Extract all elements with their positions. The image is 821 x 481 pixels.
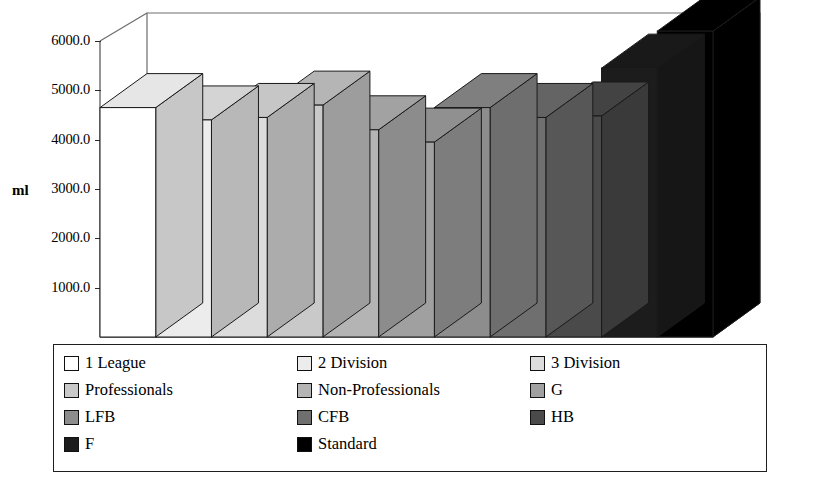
y-tick-mark — [95, 90, 101, 91]
legend-item-label: 1 League — [85, 355, 146, 372]
y-tick-label: 1000.0 — [18, 279, 90, 296]
legend-item-label: 2 Division — [318, 355, 387, 372]
y-tick-mark — [95, 140, 101, 141]
y-tick-mark — [95, 189, 101, 190]
legend-swatch-icon — [530, 410, 545, 425]
plot-back-wall — [147, 13, 760, 303]
y-tick-label: 3000.0 — [18, 180, 90, 197]
legend-swatch-icon — [297, 383, 312, 398]
legend-item[interactable]: HB — [530, 404, 730, 431]
legend-swatch-icon — [297, 410, 312, 425]
legend-item[interactable]: Standard — [297, 431, 530, 458]
legend-item-label: CFB — [318, 409, 349, 426]
legend-swatch-icon — [64, 383, 79, 398]
legend-item-label: LFB — [85, 409, 115, 426]
y-tick-label: 4000.0 — [18, 131, 90, 148]
legend-swatch-icon — [530, 356, 545, 371]
legend-item-label: Professionals — [85, 382, 173, 399]
legend-item-label: Standard — [318, 436, 377, 453]
legend-item[interactable]: 3 Division — [530, 350, 730, 377]
legend-swatch-icon — [530, 383, 545, 398]
legend-swatch-icon — [64, 437, 79, 452]
y-tick-label: 6000.0 — [18, 32, 90, 49]
legend-swatch-icon — [64, 356, 79, 371]
y-tick-label: 2000.0 — [18, 229, 90, 246]
legend-item[interactable]: F — [64, 431, 297, 458]
legend-swatch-icon — [297, 356, 312, 371]
chart-canvas: ml 1000.02000.03000.04000.05000.06000.0 … — [0, 0, 821, 481]
axis-depth-connector — [100, 13, 147, 41]
legend-swatch-icon — [297, 437, 312, 452]
legend-item-label: HB — [551, 409, 574, 426]
legend-item[interactable]: 1 League — [64, 350, 297, 377]
legend-item[interactable]: 2 Division — [297, 350, 530, 377]
y-tick-mark — [95, 288, 101, 289]
legend-swatch-icon — [64, 410, 79, 425]
legend-item-label: Non-Professionals — [318, 382, 440, 399]
y-tick-label: 5000.0 — [18, 81, 90, 98]
y-tick-mark — [95, 238, 101, 239]
legend-item-label: F — [85, 436, 94, 453]
legend-item[interactable]: Professionals — [64, 377, 297, 404]
legend-item[interactable]: LFB — [64, 404, 297, 431]
legend-item-label: G — [551, 382, 563, 399]
y-tick-mark — [95, 41, 101, 42]
legend-item-label: 3 Division — [551, 355, 620, 372]
legend-item[interactable]: G — [530, 377, 730, 404]
plot-floor — [100, 303, 760, 337]
chart-legend: 1 League2 Division3 DivisionProfessional… — [53, 344, 767, 472]
legend-item[interactable]: CFB — [297, 404, 530, 431]
legend-item[interactable]: Non-Professionals — [297, 377, 530, 404]
